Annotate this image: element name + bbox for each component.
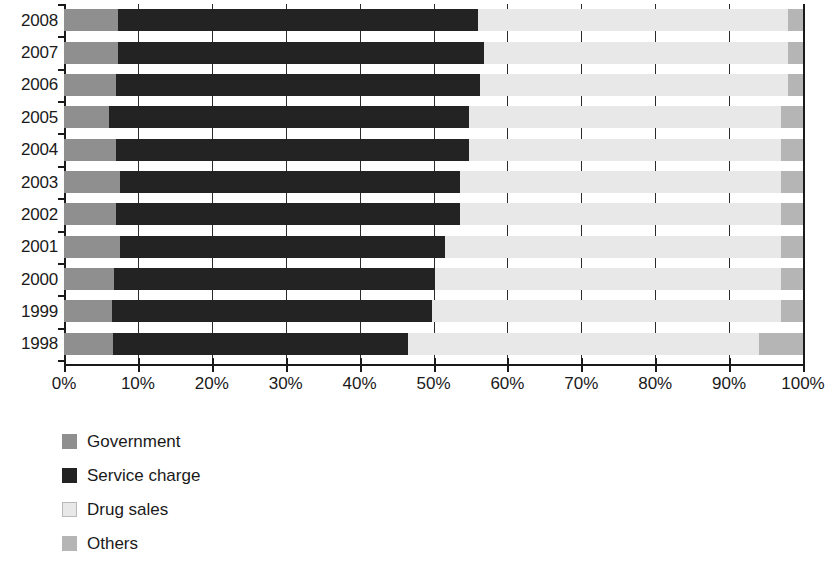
bar-row <box>64 106 803 128</box>
bar-segment-service <box>116 203 460 225</box>
legend-label: Service charge <box>87 466 200 485</box>
bar-segment-government <box>64 268 114 290</box>
bar-segment-drug <box>484 42 788 64</box>
bar-segment-others <box>781 268 803 290</box>
gridline <box>803 4 805 360</box>
y-axis-category-labels: 2008200720062005200420032002200120001999… <box>0 0 58 360</box>
x-axis-tick <box>507 358 509 372</box>
y-axis-tick <box>58 101 65 103</box>
y-axis-label-2006: 2006 <box>0 76 58 93</box>
bar-segment-others <box>759 333 803 355</box>
x-axis-tick-label: 10% <box>103 374 173 394</box>
bar-row <box>64 9 803 31</box>
bar-row <box>64 139 803 161</box>
bar-row <box>64 42 803 64</box>
bar-segment-drug <box>469 139 781 161</box>
chart-legend: GovernmentService chargeDrug salesOthers <box>62 424 462 560</box>
bar-segment-service <box>120 236 444 258</box>
y-axis-tick <box>58 328 65 330</box>
stacked-bar-chart: 2008200720062005200420032002200120001999… <box>0 0 829 566</box>
y-axis-tick <box>58 36 65 38</box>
x-axis-tick <box>286 358 288 372</box>
bar-segment-others <box>788 9 803 31</box>
y-axis-label-2003: 2003 <box>0 174 58 191</box>
y-axis-label-1998: 1998 <box>0 335 58 352</box>
x-axis-tick-label: 30% <box>251 374 321 394</box>
bar-segment-drug <box>460 203 781 225</box>
bar-row <box>64 171 803 193</box>
bar-segment-service <box>118 42 484 64</box>
legend-swatch-icon <box>62 536 77 551</box>
y-axis-label-2008: 2008 <box>0 12 58 29</box>
bar-segment-drug <box>435 268 781 290</box>
bar-segment-government <box>64 139 116 161</box>
legend-label: Others <box>87 534 138 553</box>
y-axis-label-2007: 2007 <box>0 44 58 61</box>
bar-segment-others <box>788 74 803 96</box>
bar-segment-others <box>781 106 803 128</box>
x-axis-tick <box>138 358 140 372</box>
y-axis-tick <box>58 133 65 135</box>
bar-segment-others <box>781 236 803 258</box>
bar-segment-drug <box>460 171 781 193</box>
x-axis-tick <box>581 358 583 372</box>
bar-segment-drug <box>432 300 781 322</box>
x-axis-tick-label: 40% <box>325 374 395 394</box>
bar-row <box>64 268 803 290</box>
y-axis-tick <box>58 295 65 297</box>
x-axis-tick <box>360 358 362 372</box>
bar-segment-government <box>64 300 112 322</box>
bar-segment-others <box>781 171 803 193</box>
bar-segment-service <box>112 300 432 322</box>
x-axis-tick <box>655 358 657 372</box>
bar-segment-government <box>64 333 113 355</box>
bar-row <box>64 236 803 258</box>
legend-label: Drug sales <box>87 500 168 519</box>
x-axis-tick <box>803 358 805 372</box>
x-axis-tick-label: 60% <box>472 374 542 394</box>
legend-item-service[interactable]: Service charge <box>62 458 462 492</box>
bar-segment-drug <box>478 9 788 31</box>
x-axis-tick-label: 0% <box>29 374 99 394</box>
bar-segment-service <box>116 139 469 161</box>
legend-swatch-icon <box>62 434 77 449</box>
y-axis-label-2001: 2001 <box>0 238 58 255</box>
legend-swatch-icon <box>62 468 77 483</box>
plot-canvas <box>64 4 803 360</box>
plot-area: 2008200720062005200420032002200120001999… <box>0 0 829 392</box>
bar-segment-government <box>64 236 120 258</box>
bar-segment-drug <box>469 106 781 128</box>
y-axis-label-1999: 1999 <box>0 303 58 320</box>
legend-label: Government <box>87 432 181 451</box>
bar-row <box>64 333 803 355</box>
y-axis-tick <box>58 198 65 200</box>
x-axis-tick-label: 20% <box>177 374 247 394</box>
bar-segment-government <box>64 203 116 225</box>
bar-segment-others <box>788 42 803 64</box>
legend-item-drug[interactable]: Drug sales <box>62 492 462 526</box>
bar-segment-service <box>116 74 480 96</box>
bar-segment-government <box>64 171 120 193</box>
x-axis-tick <box>434 358 436 372</box>
bar-segment-drug <box>408 333 759 355</box>
x-axis-tick <box>729 358 731 372</box>
x-axis-tick-label: 80% <box>620 374 690 394</box>
x-axis-tick-label: 70% <box>546 374 616 394</box>
x-axis-tick-label: 90% <box>694 374 764 394</box>
x-axis-tick <box>212 358 214 372</box>
bar-segment-service <box>109 106 469 128</box>
y-axis-tick <box>58 69 65 71</box>
x-axis-tick-label: 50% <box>399 374 469 394</box>
legend-item-others[interactable]: Others <box>62 526 462 560</box>
legend-item-government[interactable]: Government <box>62 424 462 458</box>
bar-row <box>64 74 803 96</box>
bar-row <box>64 203 803 225</box>
bar-segment-drug <box>480 74 788 96</box>
x-axis-tick-label: 100% <box>768 374 829 394</box>
bar-row <box>64 300 803 322</box>
bar-segment-service <box>114 268 435 290</box>
bar-segment-service <box>113 333 408 355</box>
bar-segment-others <box>781 300 803 322</box>
bar-segment-government <box>64 106 109 128</box>
y-axis-label-2000: 2000 <box>0 271 58 288</box>
